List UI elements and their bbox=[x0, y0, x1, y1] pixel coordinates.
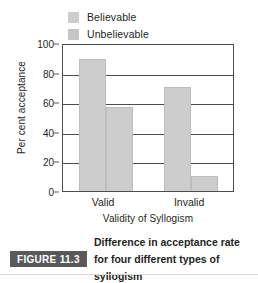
x-axis-tick-valid: Valid bbox=[92, 196, 115, 208]
bar-group-invalid bbox=[164, 45, 218, 191]
legend-label-unbelievable: Unbelievable bbox=[87, 29, 149, 40]
chart-plot-region: Per cent acceptance 100806040200 ValidIn… bbox=[0, 44, 258, 204]
figure-number-badge: FIGURE 11.3 bbox=[10, 251, 87, 267]
y-axis-tick-40: 40 bbox=[43, 127, 54, 138]
x-axis-tick-labels: ValidInvalid bbox=[62, 196, 234, 208]
bar-invalid-believable bbox=[164, 87, 191, 191]
legend-item-believable: Believable bbox=[68, 10, 218, 25]
y-axis-tick-mark-60 bbox=[54, 103, 59, 104]
bar-invalid-unbelievable bbox=[191, 176, 218, 191]
bar-groups bbox=[63, 45, 233, 191]
y-axis-tick-100: 100 bbox=[37, 39, 54, 50]
figure-caption: FIGURE 11.3 Difference in acceptance rat… bbox=[0, 234, 258, 276]
y-axis-tick-20: 20 bbox=[43, 157, 54, 168]
legend-label-believable: Believable bbox=[87, 12, 136, 23]
plot-area bbox=[62, 44, 234, 192]
bar-valid-unbelievable bbox=[106, 107, 133, 191]
x-axis-tick-invalid: Invalid bbox=[174, 196, 204, 208]
legend-item-unbelievable: Unbelievable bbox=[68, 27, 218, 42]
legend-swatch-believable bbox=[68, 12, 79, 23]
y-axis-tick-mark-40 bbox=[54, 132, 59, 133]
y-axis-tick-mark-0 bbox=[54, 192, 59, 193]
x-axis-title: Validity of Syllogism bbox=[62, 213, 234, 224]
y-axis-tick-mark-20 bbox=[54, 162, 59, 163]
figure-caption-text: Difference in acceptance rate for four d… bbox=[94, 234, 256, 283]
chart-legend: Believable Unbelievable bbox=[68, 10, 218, 44]
y-axis-tick-mark-80 bbox=[54, 73, 59, 74]
y-axis-title: Per cent acceptance bbox=[16, 53, 27, 163]
bar-group-valid bbox=[79, 45, 133, 191]
y-axis-tick-labels: 100806040200 bbox=[26, 44, 58, 192]
caption-divider bbox=[0, 274, 258, 275]
y-axis-tick-80: 80 bbox=[43, 68, 54, 79]
legend-swatch-unbelievable bbox=[68, 29, 79, 40]
bar-valid-believable bbox=[79, 59, 106, 191]
y-axis-tick-mark-100 bbox=[54, 44, 59, 45]
y-axis-tick-60: 60 bbox=[43, 98, 54, 109]
figure-11-3: Believable Unbelievable Per cent accepta… bbox=[0, 0, 258, 283]
